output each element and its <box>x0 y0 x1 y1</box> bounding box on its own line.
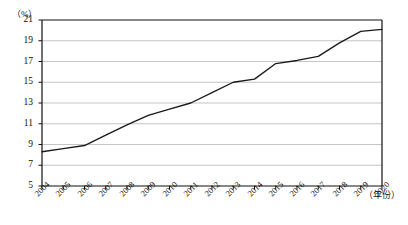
plot-area <box>0 0 408 225</box>
data-series-line <box>42 29 382 151</box>
line-chart: （%） （年份） 579111315171921 200420052006200… <box>0 0 408 225</box>
gridlines <box>42 41 382 166</box>
